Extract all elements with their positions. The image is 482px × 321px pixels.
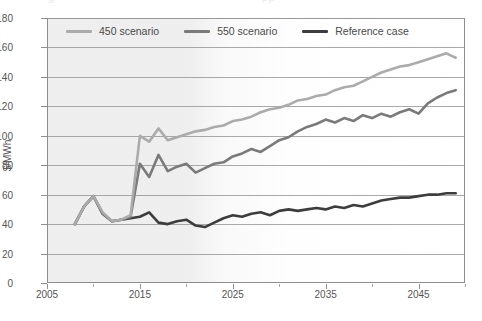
legend-item-450: 450 scenario <box>66 25 159 37</box>
legend-swatch-450 <box>66 30 92 33</box>
x-axis-tick <box>372 284 373 287</box>
legend-item-550: 550 scenario <box>184 25 277 37</box>
x-axis-tick-label: 2005 <box>36 289 58 300</box>
legend-label-550: 550 scenario <box>217 25 277 37</box>
x-axis-tick-label: 2045 <box>407 289 429 300</box>
x-axis-tick-label: 2025 <box>222 289 244 300</box>
legend-label-reference: Reference case <box>335 25 409 37</box>
x-axis-tick-label: 2035 <box>315 289 337 300</box>
x-axis-tick <box>419 284 420 289</box>
x-axis-tick <box>279 284 280 287</box>
x-axis-tick <box>186 284 187 287</box>
chart-legend: 450 scenario 550 scenario Reference case <box>66 25 434 37</box>
x-axis-tick <box>93 284 94 287</box>
chart-container: g pp $/MWh 020406080100120140160180 450 … <box>0 0 482 321</box>
legend-item-reference: Reference case <box>302 25 409 37</box>
x-axis-tick <box>47 284 48 289</box>
legend-label-450: 450 scenario <box>99 25 159 37</box>
legend-swatch-550 <box>184 30 210 33</box>
series-layer <box>0 0 482 321</box>
x-axis-tick <box>140 284 141 289</box>
x-axis-tick-label: 2015 <box>129 289 151 300</box>
x-axis-tick <box>233 284 234 289</box>
x-axis-tick <box>465 284 466 287</box>
x-axis-tick <box>326 284 327 289</box>
legend-swatch-reference <box>302 30 328 33</box>
